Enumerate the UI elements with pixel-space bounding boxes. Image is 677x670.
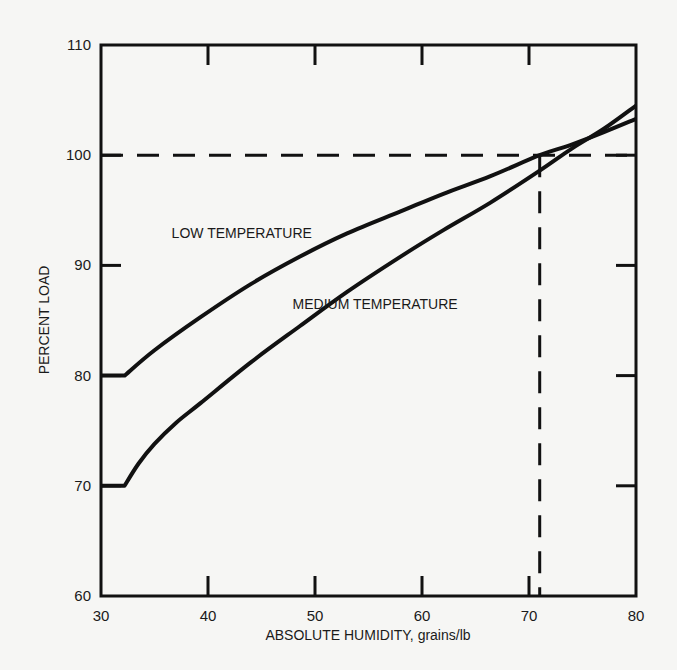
chart: 30405060708060708090100110 ABSOLUTE HUMI… [0,0,677,670]
ticks [101,45,636,596]
y-tick-label: 100 [66,146,91,163]
x-tick-label: 40 [200,607,217,624]
y-tick-label: 90 [74,256,91,273]
annotation-medium-temperature: MEDIUM TEMPERATURE [293,296,458,312]
y-axis-title: PERCENT LOAD [36,266,52,375]
reference-lines [101,155,636,596]
x-tick-label: 60 [414,607,431,624]
x-axis-title: ABSOLUTE HUMIDITY, grains/lb [265,627,470,643]
plot-frame-rect [101,45,636,596]
x-tick-label: 30 [93,607,110,624]
annotation-low-temperature: LOW TEMPERATURE [172,225,312,241]
y-tick-label: 80 [74,367,91,384]
x-tick-label: 70 [521,607,538,624]
plot-frame [101,45,636,596]
x-tick-label: 80 [628,607,645,624]
x-tick-label: 50 [307,607,324,624]
y-tick-label: 110 [67,36,91,53]
tick-labels: 30405060708060708090100110 [66,36,644,624]
y-tick-label: 60 [74,587,91,604]
y-tick-label: 70 [74,477,91,494]
